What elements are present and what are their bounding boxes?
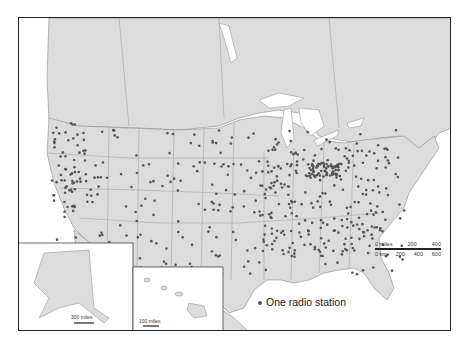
map-frame: 300 miles 100 miles (18, 17, 451, 331)
scale-km-600: 600 (432, 251, 441, 257)
scale-km-0: 0 km (375, 251, 387, 257)
scale-km-400: 400 (414, 251, 423, 257)
scale-miles-200: 200 (408, 241, 417, 247)
scale-bar: 0 miles 200 400 0 km 200 400 600 (375, 241, 441, 257)
legend-label: One radio station (266, 296, 346, 308)
alaska-scale-label: 300 miles (71, 314, 92, 320)
scale-km-200: 200 (396, 251, 405, 257)
map-legend: One radio station (258, 296, 346, 308)
hawaii-scale-label: 100 miles (139, 318, 160, 324)
scale-miles-400: 400 (432, 241, 441, 247)
scale-miles-0: 0 miles (375, 241, 392, 247)
legend-dot-icon (258, 301, 262, 305)
scale-bar-line (375, 248, 441, 250)
map-canvas (19, 18, 451, 331)
